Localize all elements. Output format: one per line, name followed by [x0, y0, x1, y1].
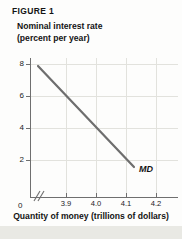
- plot-area: 8 6 4 2 3.9 4.0 4.1 4.2 0 MD: [0, 0, 182, 239]
- x-tick-label-4-2: 4.2: [145, 200, 167, 208]
- y-tick-2: [26, 160, 31, 161]
- y-tick-8: [26, 64, 31, 65]
- y-tick-label-6: 6: [12, 92, 24, 100]
- y-tick-label-2: 2: [12, 156, 24, 164]
- x-tick-4-2: [156, 193, 157, 198]
- gridline-x-4-2: [156, 58, 157, 197]
- x-tick-label-4-1: 4.1: [115, 200, 137, 208]
- y-tick-label-4: 4: [12, 124, 24, 132]
- x-tick-4-1: [126, 193, 127, 198]
- gridline-x-4-0: [96, 58, 97, 197]
- gridline-x-4-1: [126, 58, 127, 197]
- figure-panel: FIGURE 1 Nominal interest rate (percent …: [0, 0, 182, 239]
- x-tick-label-3-9: 3.9: [55, 200, 77, 208]
- y-tick-label-8: 8: [12, 60, 24, 68]
- y-tick-4: [26, 128, 31, 129]
- origin-label: 0: [18, 201, 22, 210]
- gridline-x-3-9: [66, 58, 67, 197]
- x-tick-3-9: [66, 193, 67, 198]
- x-tick-4-0: [96, 193, 97, 198]
- x-axis-title: Quantity of money (trillions of dollars): [0, 211, 182, 221]
- axis-break-icon: [31, 189, 47, 203]
- y-tick-6: [26, 96, 31, 97]
- md-curve-label: MD: [139, 164, 153, 174]
- x-tick-label-4-0: 4.0: [85, 200, 107, 208]
